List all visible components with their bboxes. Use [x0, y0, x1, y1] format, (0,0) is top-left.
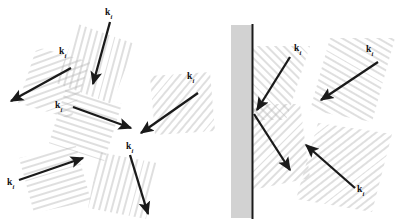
wavefront-patch-lower-left — [19, 146, 91, 213]
substrate-block — [231, 25, 252, 218]
label-ki-right-incident: ki — [294, 44, 301, 55]
label-ki-left-lower-right: ki — [126, 142, 133, 153]
label-ki-left-upper-left: ki — [59, 47, 66, 58]
wavefront-patch-lower-right — [296, 123, 392, 212]
label-ki-left-center: ki — [55, 101, 62, 112]
label-ki-right-upper: ki — [366, 45, 373, 56]
label-ki-left-lower-left: ki — [7, 178, 14, 189]
label-ki-right-lower: ki — [357, 185, 364, 196]
left-panel — [11, 22, 215, 219]
label-ki-left-right: ki — [187, 72, 194, 83]
diffraction-figure: ki ki ki ki ki ki ki ki ki — [0, 0, 400, 223]
label-ki-left-top: ki — [105, 8, 112, 19]
wavefront-patch-reflected-surface — [252, 104, 310, 190]
